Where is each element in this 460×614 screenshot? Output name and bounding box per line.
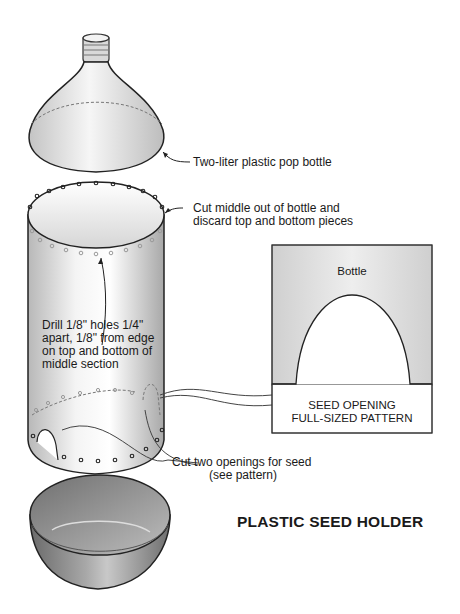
drill-callout-2: apart, 1/8" from edge (42, 331, 154, 345)
pattern-caption-1: SEED OPENING (272, 398, 432, 412)
cut-middle-callout-2: discard top and bottom pieces (193, 214, 353, 228)
openings-callout-2: (see pattern) (209, 468, 277, 482)
cut-middle-callout-1: Cut middle out of bottle and (193, 201, 340, 215)
drill-callout-3: on top and bottom of (42, 344, 152, 358)
openings-callout-1: Cut two openings for seed (172, 455, 311, 469)
pattern-bottle-label: Bottle (272, 264, 432, 278)
bottle-callout: Two-liter plastic pop bottle (193, 155, 332, 169)
pattern-caption-2: FULL-SIZED PATTERN (272, 411, 432, 425)
diagram-title: PLASTIC SEED HOLDER (237, 513, 423, 531)
drill-callout-1: Drill 1/8" holes 1/4" (42, 318, 143, 332)
drill-callout-4: middle section (42, 357, 119, 371)
bottle-base-illustration (30, 475, 170, 589)
bottle-top-illustration (29, 34, 164, 172)
